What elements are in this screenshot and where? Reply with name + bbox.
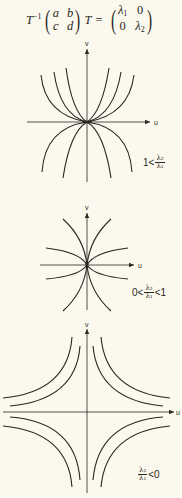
condition-label-node-between: 0< λ₂λ₁ <1 [132,285,166,300]
trajectory [93,346,163,406]
trajectory [63,265,87,311]
u-axis-label: u [176,409,180,416]
trajectory [46,265,87,279]
condition-label-saddle: λ₂λ₁ <0 [137,467,160,482]
trajectory [10,346,80,406]
trajectory [42,122,87,172]
trajectory [66,68,87,122]
v-axis-label: v [85,204,89,211]
trajectory [54,72,87,122]
u-axis-label: u [138,262,142,269]
trajectory [87,248,128,265]
trajectory [63,122,87,178]
trajectory [63,219,87,265]
v-axis-label: v [85,40,89,47]
trajectory [3,337,72,398]
trajectory [3,426,72,487]
panel-node-unequal [27,49,150,182]
trajectory [101,337,170,398]
trajectory [87,265,111,311]
trajectory [87,265,128,279]
trajectory [46,248,87,265]
panel-node-between [40,213,134,311]
u-axis-label: u [154,119,158,126]
trajectory [87,122,132,172]
trajectory [87,219,111,265]
trajectory [87,122,111,178]
trajectory [87,72,121,122]
trajectory [87,68,109,122]
v-axis-label: v [85,321,89,328]
phase-portraits: v u v u v u [0,0,182,498]
condition-label-node-unequal: 1< λ₂λ₁ [143,155,166,170]
